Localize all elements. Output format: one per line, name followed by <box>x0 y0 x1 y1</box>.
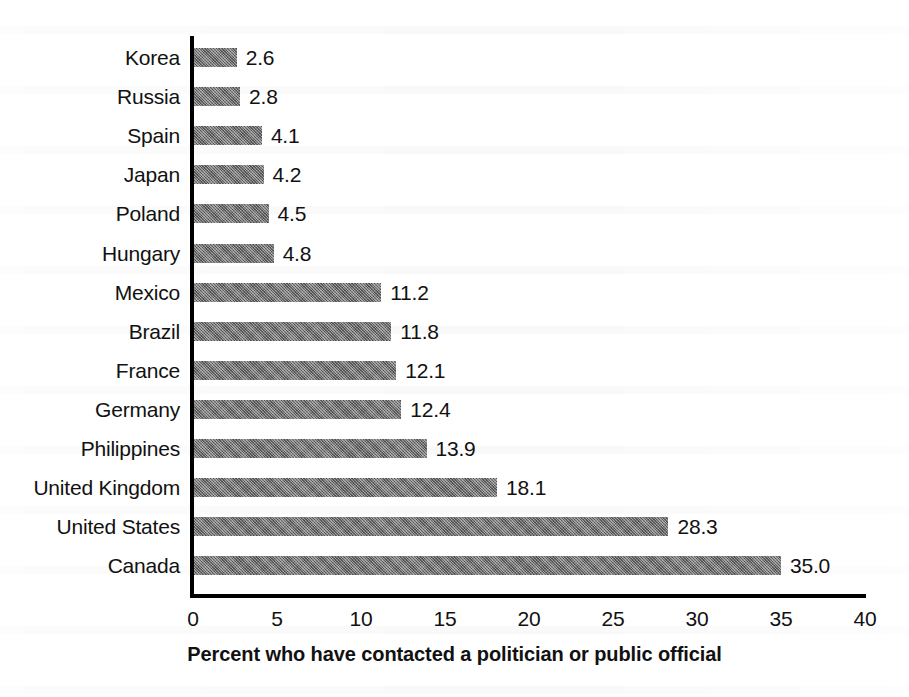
category-label: Philippines <box>0 429 180 468</box>
bar-row: Poland4.5 <box>0 194 909 233</box>
bar <box>193 361 396 380</box>
bar-value-label: 11.2 <box>390 273 429 312</box>
x-tick-label: 25 <box>602 604 625 634</box>
bar-value-label: 18.1 <box>506 468 546 507</box>
x-tick-label: 40 <box>854 604 877 634</box>
x-axis-title: Percent who have contacted a politician … <box>0 643 909 666</box>
bar <box>193 322 391 341</box>
bar <box>193 48 237 67</box>
x-tick-label: 30 <box>686 604 709 634</box>
bar <box>193 400 401 419</box>
category-label: Hungary <box>0 234 180 273</box>
bar <box>193 87 240 106</box>
bar-value-label: 12.4 <box>410 390 450 429</box>
bar-value-label: 13.9 <box>436 429 476 468</box>
bar-row: Russia2.8 <box>0 77 909 116</box>
bar <box>193 517 668 536</box>
bar <box>193 204 269 223</box>
x-tick-label: 0 <box>187 604 198 634</box>
bar <box>193 478 497 497</box>
bar-value-label: 4.1 <box>271 116 300 155</box>
bar-value-label: 4.2 <box>273 155 302 194</box>
bar-value-label: 28.3 <box>677 507 717 546</box>
category-label: Japan <box>0 155 180 194</box>
bar-value-label: 35.0 <box>790 546 830 585</box>
category-label: Russia <box>0 77 180 116</box>
bar <box>193 126 262 145</box>
bar-row: Philippines13.9 <box>0 429 909 468</box>
bar-value-label: 2.8 <box>249 77 278 116</box>
x-tick-label: 20 <box>518 604 541 634</box>
bar-row: Korea2.6 <box>0 38 909 77</box>
bar-row: Canada35.0 <box>0 546 909 585</box>
x-axis-line <box>190 594 866 598</box>
x-tick-label: 15 <box>434 604 457 634</box>
x-tick-label: 10 <box>350 604 373 634</box>
bar <box>193 244 274 263</box>
category-label: Spain <box>0 116 180 155</box>
category-label: United States <box>0 507 180 546</box>
bar <box>193 439 427 458</box>
bar-row: Hungary4.8 <box>0 234 909 273</box>
bar-value-label: 2.6 <box>246 38 275 77</box>
category-label: Brazil <box>0 312 180 351</box>
x-tick-label: 5 <box>271 604 282 634</box>
bar-value-label: 11.8 <box>400 312 439 351</box>
bar-value-label: 4.5 <box>278 194 307 233</box>
category-label: Mexico <box>0 273 180 312</box>
x-axis-tick-labels: 0510152025303540 <box>0 604 909 634</box>
bar <box>193 165 264 184</box>
category-label: Canada <box>0 546 180 585</box>
y-axis-line <box>190 36 194 598</box>
category-label: Germany <box>0 390 180 429</box>
category-label: Korea <box>0 38 180 77</box>
category-label: United Kingdom <box>0 468 180 507</box>
bar-row: France12.1 <box>0 351 909 390</box>
bar-row: Germany12.4 <box>0 390 909 429</box>
category-label: Poland <box>0 194 180 233</box>
category-label: France <box>0 351 180 390</box>
horizontal-bar-chart: Korea2.6Russia2.8Spain4.1Japan4.2Poland4… <box>0 0 909 697</box>
bar-row: United Kingdom18.1 <box>0 468 909 507</box>
bar-row: Brazil11.8 <box>0 312 909 351</box>
bar-value-label: 4.8 <box>283 234 312 273</box>
bar <box>193 283 381 302</box>
bar-row: Spain4.1 <box>0 116 909 155</box>
bar-row: Japan4.2 <box>0 155 909 194</box>
x-tick-label: 35 <box>770 604 793 634</box>
bar-value-label: 12.1 <box>405 351 445 390</box>
bar-row: Mexico11.2 <box>0 273 909 312</box>
bar-row: United States28.3 <box>0 507 909 546</box>
bar <box>193 556 781 575</box>
